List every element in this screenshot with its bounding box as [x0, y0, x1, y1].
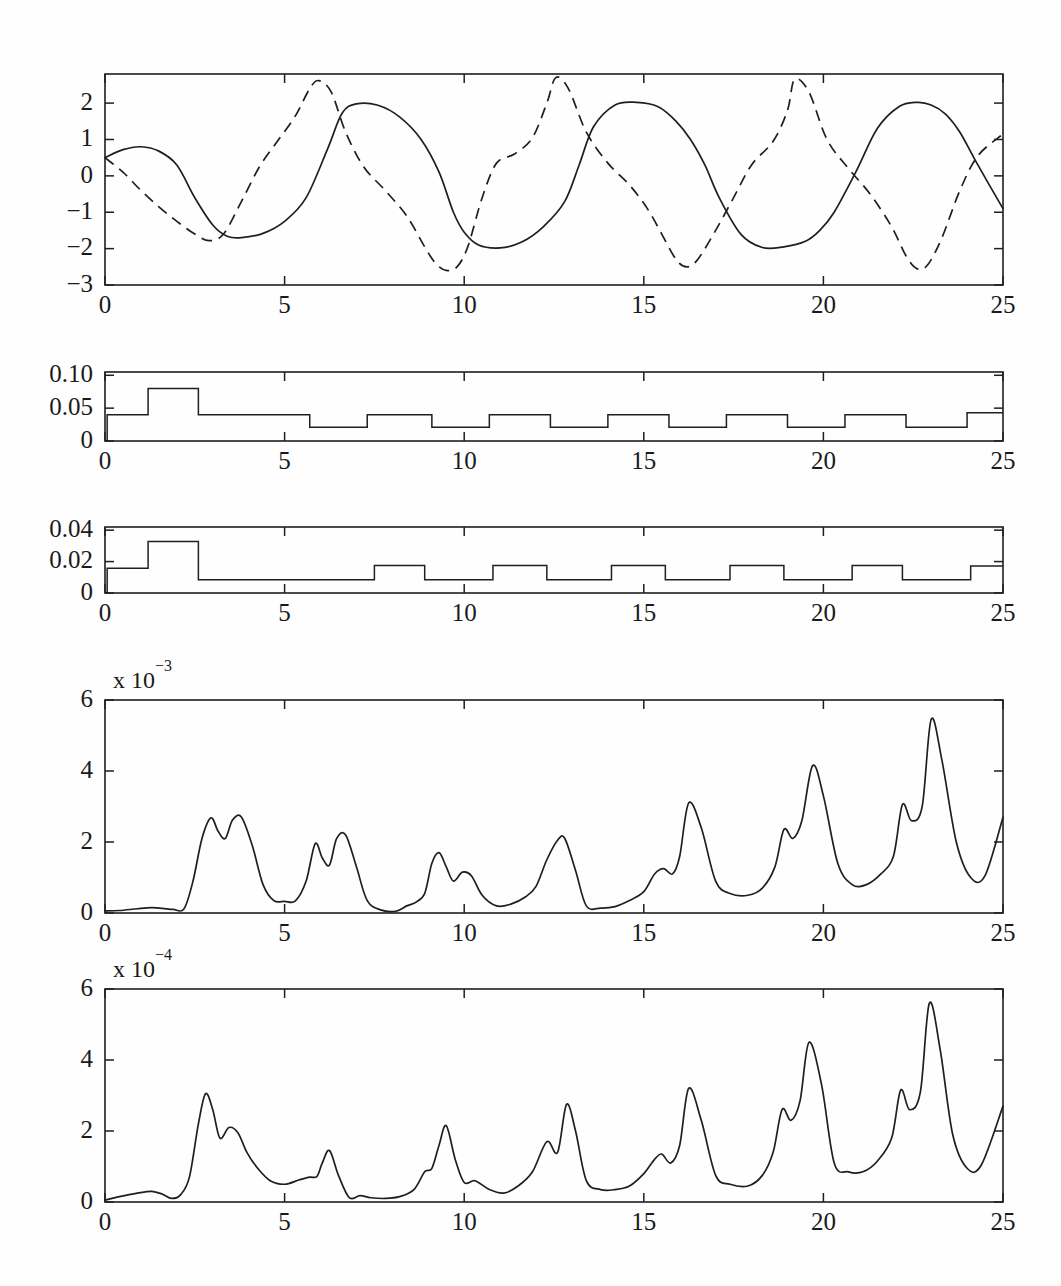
x-tick-label: 20 [811, 919, 836, 946]
y-tick-label: 0 [81, 161, 94, 188]
y-tick-label: 0.05 [49, 393, 93, 420]
y-tick-label: 0 [81, 578, 94, 605]
x-tick-label: 10 [452, 1208, 477, 1235]
x-tick-label: 5 [278, 291, 291, 318]
y-tick-label: 2 [81, 88, 94, 115]
x-tick-label: 20 [811, 1208, 836, 1235]
x-tick-label: 10 [452, 291, 477, 318]
chart-panel-4: 02460510152025x 10−3 [5, 654, 1027, 957]
x-tick-label: 20 [811, 599, 836, 626]
x-tick-label: 25 [991, 919, 1016, 946]
plot-frame [105, 74, 1003, 285]
x-tick-label: 25 [991, 1208, 1016, 1235]
y-tick-label: −1 [66, 197, 93, 224]
x-tick-label: 0 [99, 291, 112, 318]
x-tick-label: 5 [278, 447, 291, 474]
plot-frame [105, 700, 1003, 913]
chart-panel-2: 00.050.100510152025 [5, 326, 1027, 485]
x-tick-label: 5 [278, 599, 291, 626]
y-tick-label: −3 [66, 270, 93, 297]
y-axis-multiplier-label: x 10−4 [113, 946, 172, 983]
series-line-dashed [105, 77, 1003, 271]
x-tick-label: 15 [631, 447, 656, 474]
x-tick-label: 25 [991, 599, 1016, 626]
series-line-solid [105, 102, 1003, 249]
plot-frame [105, 372, 1003, 441]
y-tick-label: 6 [81, 685, 94, 712]
figure-root: −3−2−1012051015202500.050.10051015202500… [0, 0, 1061, 1286]
chart-panel-3: 00.020.040510152025 [5, 481, 1027, 637]
y-tick-label: 0.02 [49, 546, 93, 573]
y-tick-label: 2 [81, 1116, 94, 1143]
y-tick-label: 6 [81, 974, 94, 1001]
x-tick-label: 5 [278, 1208, 291, 1235]
series-line-step-signal [105, 541, 1003, 593]
plot-frame [105, 527, 1003, 593]
series-line-error-signal [105, 1002, 1003, 1200]
y-axis-multiplier-label: x 10−3 [113, 657, 172, 694]
x-tick-label: 10 [452, 447, 477, 474]
y-tick-label: 2 [81, 827, 94, 854]
chart-panel-5: 02460510152025x 10−4 [5, 943, 1027, 1246]
x-tick-label: 5 [278, 919, 291, 946]
series-line-error-signal [105, 718, 1003, 911]
x-tick-label: 0 [99, 919, 112, 946]
x-tick-label: 0 [99, 447, 112, 474]
x-tick-label: 0 [99, 599, 112, 626]
x-tick-label: 25 [991, 291, 1016, 318]
y-tick-label: 0 [81, 426, 94, 453]
series-line-step-signal [105, 388, 1003, 441]
y-tick-label: 0.04 [49, 515, 93, 542]
x-tick-label: 10 [452, 599, 477, 626]
x-tick-label: 15 [631, 291, 656, 318]
x-tick-label: 25 [991, 447, 1016, 474]
y-tick-label: 0.10 [49, 360, 93, 387]
x-tick-label: 15 [631, 1208, 656, 1235]
x-tick-label: 15 [631, 599, 656, 626]
y-tick-label: −2 [66, 233, 93, 260]
chart-panel-1: −3−2−10120510152025 [5, 28, 1027, 329]
x-tick-label: 0 [99, 1208, 112, 1235]
x-tick-label: 20 [811, 291, 836, 318]
y-tick-label: 1 [81, 124, 94, 151]
y-tick-label: 4 [81, 756, 94, 783]
x-tick-label: 10 [452, 919, 477, 946]
x-tick-label: 20 [811, 447, 836, 474]
y-tick-label: 0 [81, 898, 94, 925]
y-tick-label: 4 [81, 1045, 94, 1072]
y-tick-label: 0 [81, 1187, 94, 1214]
x-tick-label: 15 [631, 919, 656, 946]
